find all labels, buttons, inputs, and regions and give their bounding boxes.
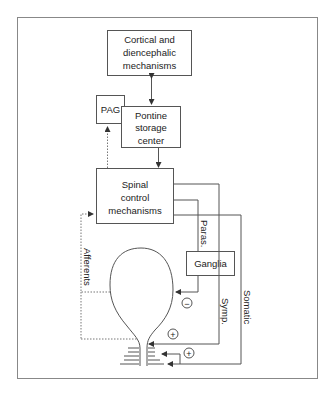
excitatory-sign-1: + <box>168 329 178 340</box>
bladder-outline <box>110 248 173 366</box>
pontine-label-line1: Pontine <box>135 110 167 121</box>
somatic-label: Somatic <box>242 290 253 325</box>
spinal-control-box: Spinal control mechanisms <box>97 169 174 224</box>
ganglia-label: Ganglia <box>194 258 227 269</box>
afferents-label: Afferents <box>82 248 93 286</box>
micturition-control-diagram: Cortical and diencephalic mechanisms PAG… <box>0 0 325 393</box>
symp-label: Symp. <box>220 298 231 325</box>
ganglia-box: Ganglia <box>187 252 235 276</box>
external-sphincter-left <box>120 348 139 364</box>
inhibitory-sign: − <box>182 298 192 309</box>
svg-text:−: − <box>184 299 189 309</box>
paras-label: Paras. <box>199 220 210 247</box>
cortical-label-line2: diencephalic <box>123 47 176 58</box>
pontine-label-line2: storage <box>135 122 167 133</box>
pontine-label-line3: center <box>138 135 164 146</box>
cortical-label-line1: Cortical and <box>124 34 175 45</box>
external-sphincter-right <box>148 348 164 364</box>
pontine-storage-box: Pontine storage center <box>122 107 181 148</box>
cortical-diencephalic-box: Cortical and diencephalic mechanisms <box>108 31 192 76</box>
spinal-label-line2: control <box>121 192 150 203</box>
pag-box: PAG <box>97 96 125 124</box>
spinal-label-line3: mechanisms <box>108 205 162 216</box>
svg-text:+: + <box>170 330 175 340</box>
spinal-label-line1: Spinal <box>122 179 148 190</box>
parasympathetic-pathway <box>174 200 198 256</box>
cortical-label-line3: mechanisms <box>123 60 177 71</box>
ganglia-to-bladder-arrow <box>176 276 198 292</box>
svg-text:+: + <box>186 349 191 359</box>
excitatory-sign-2: + <box>184 348 194 359</box>
pag-label: PAG <box>101 104 120 115</box>
